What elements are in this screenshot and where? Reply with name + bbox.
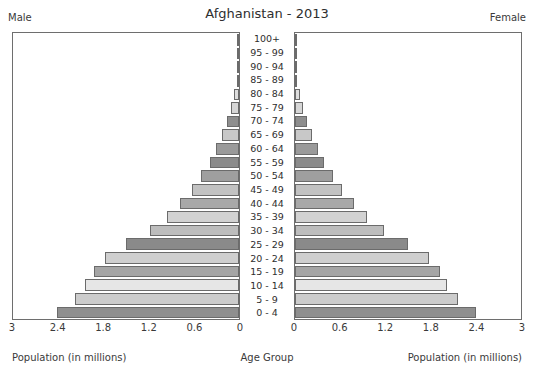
table-row — [13, 265, 239, 279]
male-bar — [201, 170, 239, 182]
female-bar — [295, 293, 458, 305]
age-group-label: 90 - 94 — [240, 59, 294, 73]
female-bar — [295, 89, 300, 101]
chart-canvas: Male Female Afghanistan - 2013 100+95 - … — [0, 0, 534, 375]
table-row — [295, 306, 521, 320]
axis-tick-label: 2.4 — [50, 322, 66, 333]
table-row — [13, 33, 239, 47]
male-bar — [85, 279, 239, 291]
table-row — [295, 142, 521, 156]
table-row — [295, 33, 521, 47]
table-row — [13, 278, 239, 292]
age-group-labels: 100+95 - 9990 - 9485 - 8980 - 8475 - 797… — [240, 32, 294, 320]
male-bar — [237, 34, 239, 46]
table-row — [295, 237, 521, 251]
male-bar — [150, 225, 239, 237]
table-row — [295, 101, 521, 115]
axis-tick-label: 1.8 — [423, 322, 439, 333]
age-group-label: 55 - 59 — [240, 155, 294, 169]
axis-tick-label: 0.6 — [186, 322, 202, 333]
age-group-label: 30 - 34 — [240, 224, 294, 238]
axis-tick-label: 0 — [291, 322, 297, 333]
table-row — [13, 156, 239, 170]
table-row — [295, 278, 521, 292]
male-bar — [237, 48, 239, 60]
axis-tick-label: 2.4 — [468, 322, 484, 333]
axis-tick-label: 0 — [237, 322, 243, 333]
axis-tick-label: 1.8 — [95, 322, 111, 333]
table-row — [295, 74, 521, 88]
female-bar — [295, 116, 307, 128]
age-group-label: 80 - 84 — [240, 87, 294, 101]
table-row — [13, 142, 239, 156]
age-group-label: 15 - 19 — [240, 265, 294, 279]
table-row — [295, 47, 521, 61]
female-bar — [295, 48, 297, 60]
male-bar — [94, 266, 239, 278]
table-row — [13, 210, 239, 224]
age-group-label: 75 - 79 — [240, 101, 294, 115]
female-axis-title: Population (in millions) — [294, 352, 522, 363]
table-row — [13, 197, 239, 211]
age-group-label: 70 - 74 — [240, 114, 294, 128]
age-group-label: 40 - 44 — [240, 197, 294, 211]
table-row — [13, 60, 239, 74]
female-bar — [295, 61, 297, 73]
male-plot-panel — [12, 32, 240, 320]
female-bar — [295, 252, 429, 264]
age-group-label: 100+ — [240, 32, 294, 46]
male-bar — [105, 252, 239, 264]
table-row — [295, 251, 521, 265]
table-row — [295, 292, 521, 306]
male-bar — [216, 143, 239, 155]
table-row — [295, 169, 521, 183]
age-group-label: 65 - 69 — [240, 128, 294, 142]
axis-tick-label: 3 — [519, 322, 525, 333]
male-bar-rows — [13, 33, 239, 319]
male-bar — [237, 61, 239, 73]
age-group-label: 10 - 14 — [240, 279, 294, 293]
age-group-label: 5 - 9 — [240, 293, 294, 307]
female-bar — [295, 225, 384, 237]
male-bar — [231, 102, 239, 114]
female-axis-ticks: 00.61.21.82.43 — [294, 322, 522, 336]
table-row — [295, 183, 521, 197]
male-bar — [180, 198, 239, 210]
table-row — [13, 251, 239, 265]
table-row — [13, 169, 239, 183]
female-bar — [295, 279, 447, 291]
female-bar — [295, 170, 333, 182]
female-bar — [295, 238, 408, 250]
axis-tick-label: 3 — [9, 322, 15, 333]
female-bar — [295, 75, 297, 87]
female-bar — [295, 198, 354, 210]
male-bar — [192, 184, 239, 196]
axis-tick-label: 0.6 — [332, 322, 348, 333]
age-group-label: 45 - 49 — [240, 183, 294, 197]
age-group-label: 20 - 24 — [240, 252, 294, 266]
table-row — [13, 183, 239, 197]
table-row — [13, 115, 239, 129]
center-axis-title: Age Group — [240, 352, 294, 363]
male-bar — [167, 211, 239, 223]
table-row — [295, 156, 521, 170]
age-group-label: 95 - 99 — [240, 46, 294, 60]
male-bar — [237, 75, 239, 87]
age-group-label: 35 - 39 — [240, 210, 294, 224]
table-row — [13, 292, 239, 306]
table-row — [295, 88, 521, 102]
table-row — [295, 224, 521, 238]
age-group-label: 25 - 29 — [240, 238, 294, 252]
female-bar — [295, 143, 318, 155]
female-bar — [295, 211, 367, 223]
male-bar — [234, 89, 239, 101]
female-plot-panel — [294, 32, 522, 320]
female-bar-rows — [295, 33, 521, 319]
female-bar — [295, 307, 476, 319]
female-bar — [295, 102, 303, 114]
table-row — [13, 237, 239, 251]
male-bar — [222, 129, 239, 141]
female-bar — [295, 157, 324, 169]
table-row — [13, 47, 239, 61]
age-group-label: 50 - 54 — [240, 169, 294, 183]
